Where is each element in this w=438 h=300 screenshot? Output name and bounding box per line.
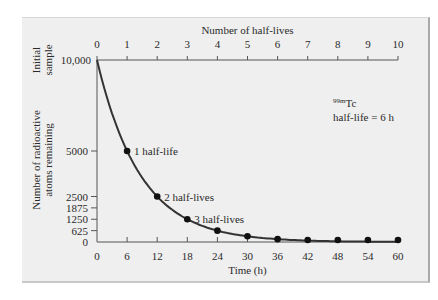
data-point-marker [124,148,131,155]
x2-tick-label: 5 [245,38,251,50]
point-annotation: 1 half-life [134,145,178,157]
isotope-label: 99mTc [333,97,356,109]
y-tick-label: 1875 [66,202,89,214]
x2-tick-label: 9 [365,38,371,50]
x2-tick-label: 6 [275,38,281,50]
y-tick-label: 625 [72,225,89,237]
data-point-marker [365,237,372,244]
x-tick-label: 60 [393,250,405,262]
data-point-marker [214,227,221,234]
half-life-chart: 06121824303642485460Time (h)012345678910… [0,0,438,300]
data-point-marker [184,216,191,223]
data-point-marker [274,236,281,243]
half-life-label: half-life = 6 h [333,111,394,123]
x2-tick-label: 7 [305,38,311,50]
x2-axis-label: Number of half-lives [201,24,293,36]
x2-tick-label: 0 [94,38,100,50]
x-tick-label: 36 [272,250,284,262]
data-point-marker [395,237,402,244]
data-point-marker [244,233,251,240]
x-tick-label: 18 [182,250,194,262]
x-tick-label: 24 [212,250,224,262]
x2-tick-label: 2 [154,38,160,50]
x-tick-label: 42 [302,250,313,262]
x2-tick-label: 1 [124,38,130,50]
data-point-marker [335,237,342,244]
x2-tick-label: 8 [335,38,341,50]
point-annotation: 2 half-lives [164,191,214,203]
x-tick-label: 30 [242,250,254,262]
data-point-marker [154,193,161,200]
x2-tick-label: 10 [393,38,405,50]
x-tick-label: 12 [152,250,163,262]
x2-tick-label: 4 [215,38,221,50]
x-tick-label: 54 [362,250,374,262]
x-axis-label: Time (h) [228,264,267,277]
data-point-marker [304,237,311,244]
point-annotation: 3 half-lives [194,213,244,225]
y-axis-top-label: Initialsample [30,44,54,75]
y-tick-label: 0 [83,236,89,248]
y-tick-label: 1250 [66,213,89,225]
x-tick-label: 48 [332,250,344,262]
y-tick-label: 10,000 [61,54,92,66]
x2-tick-label: 3 [185,38,191,50]
y-axis-label: Number of radioactiveatoms remaining [30,110,54,210]
x-tick-label: 0 [94,250,100,262]
x-tick-label: 6 [124,250,130,262]
y-tick-label: 5000 [66,145,89,157]
y-tick-label: 2500 [66,191,89,203]
